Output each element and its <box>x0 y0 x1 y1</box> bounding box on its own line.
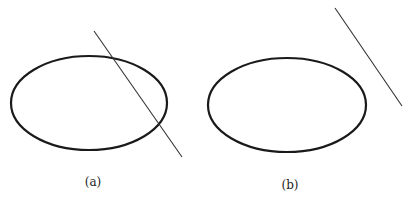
line-b <box>335 8 402 106</box>
panel-label-b: (b) <box>281 178 298 192</box>
line-a <box>94 31 182 157</box>
diagram-canvas: (a) (b) <box>0 0 411 197</box>
panel-a: (a) <box>11 31 182 189</box>
ellipse-b <box>208 58 366 152</box>
panel-label-a: (a) <box>85 175 102 189</box>
panel-b: (b) <box>208 8 402 192</box>
ellipse-a <box>11 56 167 150</box>
